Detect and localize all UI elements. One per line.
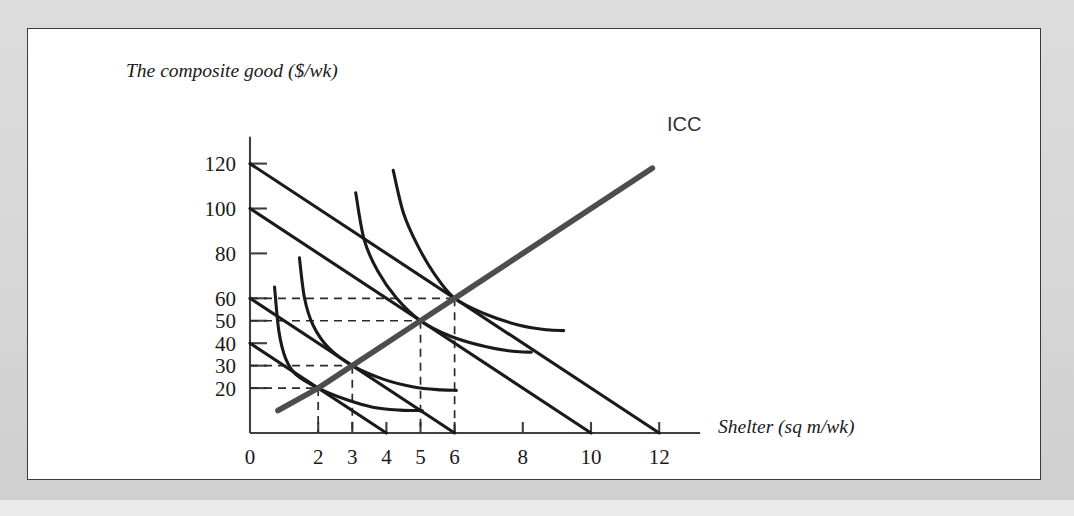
x-axis-title: Shelter (sq m/wk)	[718, 416, 854, 438]
x-axis-tick-label: 5	[415, 445, 426, 469]
y-axis-tick-label: 50	[215, 309, 236, 333]
x-axis-tick-label: 4	[381, 445, 392, 469]
indifference-curve-4	[393, 170, 563, 330]
y-axis-tick-label: 30	[215, 354, 236, 378]
indifference-curve-2	[299, 258, 456, 390]
y-axis-tick-label: 20	[215, 377, 236, 401]
y-axis-tick-label: 80	[215, 242, 236, 266]
x-axis-tick-label: 2	[313, 445, 324, 469]
y-axis-title: The composite good ($/wk)	[126, 60, 338, 82]
indifference-curve-chart: 02345681012 203040506080100120 The compo…	[28, 29, 1042, 481]
x-axis-tick-label: 0	[245, 445, 256, 469]
figure-bottom-strip	[0, 500, 1074, 516]
y-axis-tick-label: 40	[215, 332, 236, 356]
icc-curve-label: ICC	[667, 113, 701, 135]
figure-outer-margin: 02345681012 203040506080100120 The compo…	[0, 0, 1074, 500]
figure-card: 02345681012 203040506080100120 The compo…	[27, 28, 1041, 480]
x-axis-tick-labels: 02345681012	[245, 445, 670, 469]
y-axis-tick-labels: 203040506080100120	[205, 152, 237, 401]
x-axis-tick-label: 8	[518, 445, 529, 469]
x-axis-tick-label: 12	[649, 445, 670, 469]
chart-plot-area: 02345681012 203040506080100120 The compo…	[28, 29, 1042, 481]
y-axis-tick-label: 60	[215, 287, 236, 311]
icc-line-group	[278, 168, 652, 410]
indifference-curves	[275, 170, 564, 410]
y-axis-tick-label: 120	[205, 152, 237, 176]
x-axis-tick-label: 10	[581, 445, 602, 469]
icc-line	[278, 168, 652, 410]
x-axis-tick-label: 3	[347, 445, 358, 469]
y-axis-tick-label: 100	[205, 197, 237, 221]
indifference-curve-3	[356, 193, 532, 352]
x-axis-tick-label: 6	[449, 445, 460, 469]
x-axis-ticks	[318, 422, 659, 433]
